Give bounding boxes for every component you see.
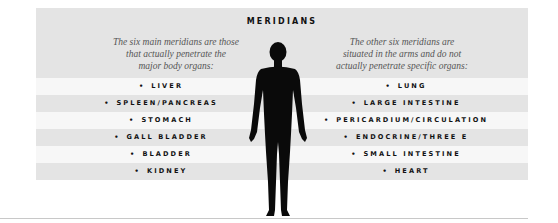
bullet-icon: • — [130, 150, 136, 158]
left-intro-line: that actually penetrate the — [86, 48, 266, 60]
bullet-icon: • — [382, 167, 388, 175]
right-intro-line: The other six meridians are — [307, 36, 497, 48]
left-intro-line: major body organs: — [86, 60, 266, 72]
right-meridian-item: •LARGE INTESTINE — [306, 95, 506, 112]
item-label: LARGE INTESTINE — [364, 99, 461, 107]
left-meridian-item: •KIDNEY — [66, 163, 256, 180]
item-label: ENDOCRINE/THREE E — [356, 133, 469, 141]
right-meridian-item: •PERICARDIUM/CIRCULATION — [306, 112, 506, 129]
bottom-divider — [0, 218, 528, 219]
right-intro-line: situated in the arms and do not — [307, 48, 497, 60]
left-meridian-item: •BLADDER — [66, 146, 256, 163]
left-intro: The six main meridians are those that ac… — [86, 36, 266, 72]
item-label: KIDNEY — [147, 167, 187, 175]
bullet-icon: • — [386, 82, 392, 90]
bullet-icon: • — [351, 99, 357, 107]
item-label: STOMACH — [141, 116, 193, 124]
left-intro-line: The six main meridians are those — [86, 36, 266, 48]
bullet-icon: • — [114, 133, 120, 141]
bullet-icon: • — [351, 150, 357, 158]
item-label: SPLEEN/PANCREAS — [116, 99, 217, 107]
left-meridian-item: •LIVER — [66, 78, 256, 95]
bullet-icon: • — [139, 82, 145, 90]
human-silhouette-icon — [247, 42, 309, 220]
item-label: GALL BLADDER — [127, 133, 208, 141]
bullet-icon: • — [129, 116, 135, 124]
right-intro: The other six meridians are situated in … — [307, 36, 497, 72]
item-label: LIVER — [151, 82, 183, 90]
left-meridian-item: •SPLEEN/PANCREAS — [66, 95, 256, 112]
right-intro-line: actually penetrate specific organs: — [307, 60, 497, 72]
right-meridian-item: •SMALL INTESTINE — [306, 146, 506, 163]
right-meridian-item: •HEART — [306, 163, 506, 180]
left-meridian-item: •STOMACH — [66, 112, 256, 129]
item-label: PERICARDIUM/CIRCULATION — [336, 116, 488, 124]
item-label: BLADDER — [142, 150, 192, 158]
right-meridian-item: •LUNG — [306, 78, 506, 95]
bullet-icon: • — [344, 133, 350, 141]
left-meridian-item: •GALL BLADDER — [66, 129, 256, 146]
item-label: SMALL INTESTINE — [364, 150, 461, 158]
item-label: HEART — [395, 167, 430, 175]
bullet-icon: • — [104, 99, 110, 107]
bullet-icon: • — [324, 116, 330, 124]
panel-title: MERIDIANS — [36, 17, 528, 26]
item-label: LUNG — [398, 82, 427, 90]
right-meridian-item: •ENDOCRINE/THREE E — [306, 129, 506, 146]
bullet-icon: • — [135, 167, 141, 175]
